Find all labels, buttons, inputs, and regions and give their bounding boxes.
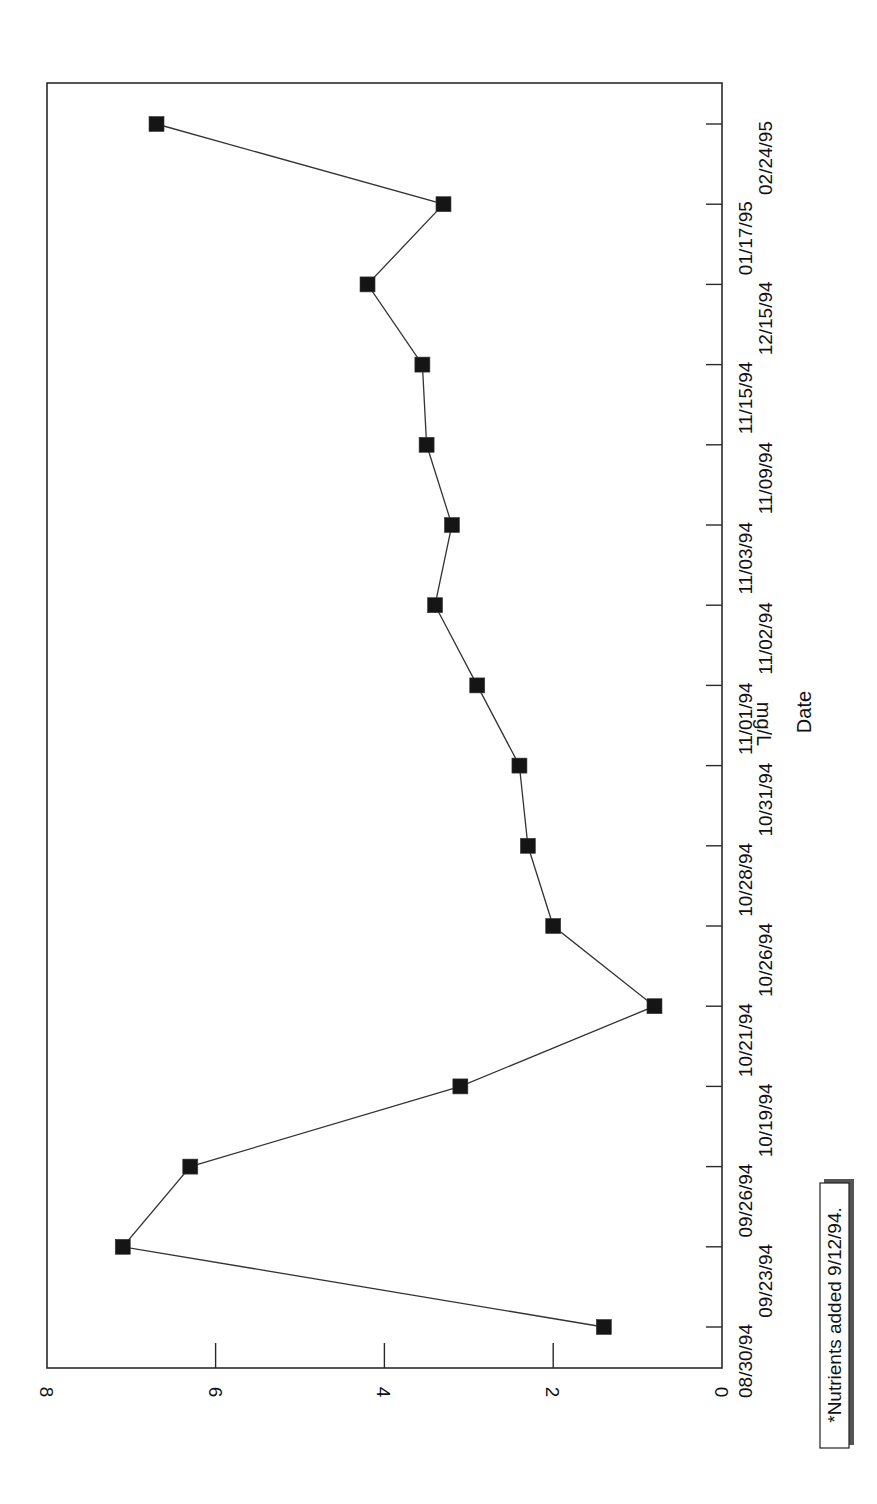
date-axis-tick-labels: 08/30/9409/23/9409/26/9410/19/9410/21/94… [735,121,776,1398]
data-point-marker [444,518,459,533]
date-tick-label: 08/30/94 [735,1324,756,1398]
value-tick-label: 6 [205,1387,226,1398]
value-axis-tick-labels: 02468 [36,1387,732,1398]
annotation-note: *Nutrients added 9/12/94. [820,1179,854,1448]
date-tick-label: 09/26/94 [735,1163,756,1237]
data-point-marker [415,357,430,372]
date-tick-label: 09/23/94 [755,1243,776,1317]
date-tick-label: 10/21/94 [735,1003,756,1077]
data-point-marker [647,999,662,1014]
data-point-marker [470,678,485,693]
x-axis-label: Date [793,691,815,733]
value-axis-ticks [216,1343,554,1368]
value-tick-label: 4 [373,1387,394,1398]
date-tick-label: 11/03/94 [735,522,756,595]
date-tick-label: 12/15/94 [755,281,776,355]
plot-frame [47,83,722,1368]
date-tick-label: 11/09/94 [755,441,776,514]
data-point-marker [115,1239,130,1254]
date-tick-label: 11/02/94 [755,602,776,675]
date-tick-label: 10/19/94 [755,1083,776,1157]
data-point-marker [183,1159,198,1174]
value-tick-label: 8 [36,1387,57,1398]
data-point-marker [596,1320,611,1335]
date-tick-label: 01/17/95 [735,201,756,275]
date-tick-label: 10/26/94 [755,923,776,997]
data-point-marker [453,1079,468,1094]
data-point-marker [436,197,451,212]
date-tick-label: 02/24/95 [755,121,776,195]
data-point-marker [360,277,375,292]
series-line [123,124,655,1327]
date-tick-label: 11/15/94 [735,361,756,434]
data-markers [115,117,662,1335]
note-text: *Nutrients added 9/12/94. [824,1207,845,1423]
value-tick-label: 2 [542,1387,563,1398]
date-tick-label: 11/01/94 [735,682,756,755]
date-tick-label: 10/28/94 [735,842,756,916]
line-chart: 02468 08/30/9409/23/9409/26/9410/19/9410… [0,0,877,1504]
date-axis-ticks [706,124,722,1327]
data-point-marker [419,437,434,452]
data-point-marker [149,117,164,132]
data-point-marker [428,598,443,613]
value-tick-label: 0 [711,1387,732,1398]
data-point-marker [520,838,535,853]
date-tick-label: 10/31/94 [755,762,776,836]
y-axis-label: mg/L [753,702,775,746]
data-point-marker [512,758,527,773]
data-point-marker [546,919,561,934]
